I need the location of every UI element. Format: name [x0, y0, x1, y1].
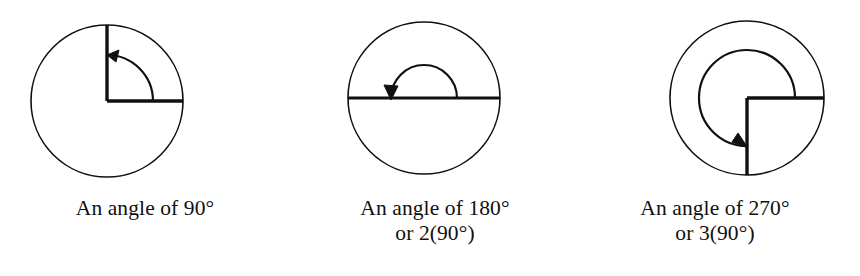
figure-angle-270-caption: An angle of 270° or 3(90°) — [570, 196, 860, 246]
angle-270-drawing — [570, 0, 860, 200]
caption-line-1: An angle of 90° — [76, 196, 214, 220]
angle-180-drawing — [290, 0, 580, 200]
angle-arc — [391, 65, 457, 98]
figure-angle-270: An angle of 270° or 3(90°) — [570, 0, 860, 276]
figure-angle-90: An angle of 90° — [0, 0, 290, 276]
caption-line-1: An angle of 270° — [640, 196, 789, 220]
figure-angle-180: An angle of 180° or 2(90°) — [290, 0, 580, 276]
angle-arc — [107, 55, 153, 101]
figure-angle-90-caption: An angle of 90° — [0, 196, 290, 221]
angle-90-drawing — [0, 0, 290, 200]
caption-line-2: or 2(90°) — [290, 221, 580, 246]
arc-arrowhead-icon — [107, 50, 119, 62]
caption-line-1: An angle of 180° — [360, 196, 509, 220]
caption-line-2: or 3(90°) — [570, 221, 860, 246]
figure-angle-180-caption: An angle of 180° or 2(90°) — [290, 196, 580, 246]
angle-diagram-page: An angle of 90° An angle of 180° or 2(90… — [0, 0, 860, 276]
